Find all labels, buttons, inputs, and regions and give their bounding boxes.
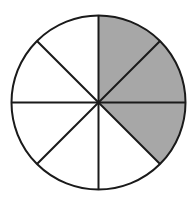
fraction-circle-svg	[0, 0, 196, 202]
fraction-circle-figure	[0, 0, 196, 202]
